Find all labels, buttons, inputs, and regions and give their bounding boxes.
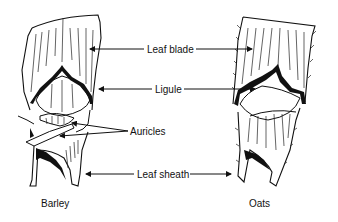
oats-ligule-margin bbox=[234, 64, 306, 106]
label-leaf-sheath: Leaf sheath bbox=[86, 169, 231, 180]
auricles-arrow-upper bbox=[72, 123, 128, 131]
leaf-sheath-label: Leaf sheath bbox=[137, 169, 189, 180]
barley-ligule-margin bbox=[30, 65, 93, 104]
barley-leaf-sheath bbox=[30, 132, 88, 186]
auricles-label: Auricles bbox=[130, 126, 166, 137]
barley-collar-shade bbox=[30, 128, 34, 138]
leaf-blade-label: Leaf blade bbox=[147, 44, 194, 55]
barley-sheath-dark bbox=[36, 148, 66, 180]
barley-drawing bbox=[18, 15, 101, 186]
auricles-arrow-lower bbox=[60, 131, 128, 136]
ligule-label: Ligule bbox=[155, 84, 182, 95]
diagram-canvas: Leaf blade Ligule Auricles Leaf sheath B… bbox=[0, 0, 338, 222]
oats-blade-veins bbox=[242, 28, 304, 88]
label-auricles: Auricles bbox=[60, 123, 166, 137]
label-ligule: Ligule bbox=[99, 84, 255, 95]
label-leaf-blade: Leaf blade bbox=[90, 44, 252, 55]
oats-caption: Oats bbox=[249, 198, 270, 209]
oats-drawing bbox=[232, 17, 316, 186]
diagram: Leaf blade Ligule Auricles Leaf sheath B… bbox=[0, 0, 338, 222]
barley-caption: Barley bbox=[41, 198, 69, 209]
oats-collar-line bbox=[250, 111, 296, 116]
barley-ligule bbox=[36, 76, 90, 116]
